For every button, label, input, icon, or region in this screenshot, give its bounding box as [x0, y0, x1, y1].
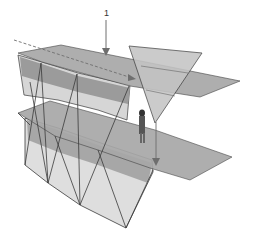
diagram-figure: 1 [0, 0, 254, 242]
label-1: 1 [104, 8, 109, 18]
arrow-1: 1 [102, 8, 110, 56]
